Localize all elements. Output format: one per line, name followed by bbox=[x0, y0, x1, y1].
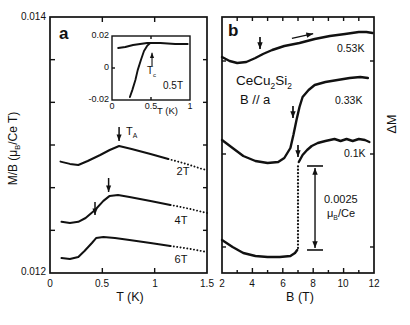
material-s2: 2 bbox=[287, 81, 292, 91]
panel-b-xtick-12: 12 bbox=[362, 279, 386, 289]
panel-b-y-axis-label: ΔM bbox=[386, 104, 400, 144]
panel-b-xtick-8: 8 bbox=[301, 279, 325, 289]
transition-label-TA: TA bbox=[126, 126, 137, 137]
y-axis-label-pre: M/B (μ bbox=[6, 150, 20, 186]
material-p1: CeCu bbox=[236, 73, 271, 88]
unit-post: /Ce bbox=[338, 207, 355, 219]
panel-a-xtick-1: 1 bbox=[140, 279, 170, 289]
panel-a-ytick-bottom: 0.012 bbox=[15, 267, 46, 277]
curve-label-053K: 0.53K bbox=[337, 43, 364, 54]
curve-label-2T: 2T bbox=[168, 166, 198, 177]
y-axis-label-post: /Ce T) bbox=[6, 112, 20, 145]
panel-b-xtick-6: 6 bbox=[271, 279, 295, 289]
panel-a-y-axis-label: M/B (μB/Ce T) bbox=[7, 69, 22, 229]
panel-a-xtick-0: 0 bbox=[35, 279, 65, 289]
y-axis-label-sub: B bbox=[13, 145, 22, 150]
inset-ytick-0: 0 bbox=[83, 63, 109, 72]
panel-b-xtick-10: 10 bbox=[331, 279, 355, 289]
panel-a-xtick-05: 0.5 bbox=[87, 279, 117, 289]
inset-xtick-1: 1 bbox=[182, 102, 198, 111]
panel-b-xtick-4: 4 bbox=[240, 279, 264, 289]
panel-a-x-axis-label: T (K) bbox=[100, 291, 160, 304]
inset-field-label: 0.5T bbox=[163, 81, 183, 91]
transition-label-Tc: Tc bbox=[147, 66, 156, 76]
panel-b-x-axis-label: B (T) bbox=[270, 291, 330, 304]
material-label: CeCu2Si2 bbox=[236, 74, 292, 88]
inset-x-axis-label: T (K) bbox=[157, 106, 178, 116]
TA-pre: T bbox=[126, 125, 133, 137]
panel-b-letter: b bbox=[228, 22, 238, 39]
inset-xtick-0: 0 bbox=[104, 102, 120, 111]
Tc-sub: c bbox=[153, 71, 156, 78]
material-p2: Si bbox=[275, 73, 287, 88]
TA-sub: A bbox=[133, 132, 138, 139]
field-orientation-label: B // a bbox=[240, 93, 270, 106]
curve-label-033K: 0.33K bbox=[335, 95, 362, 106]
panel-a-ytick-top: 0.014 bbox=[15, 12, 46, 22]
inset-ytick-002: 0.02 bbox=[83, 31, 109, 40]
curve-label-01K: 0.1K bbox=[344, 148, 366, 159]
panel-a-letter: a bbox=[59, 25, 68, 42]
scale-bar-unit: μB/Ce bbox=[327, 208, 355, 219]
curve-label-4T: 4T bbox=[166, 215, 196, 226]
curve-label-6T: 6T bbox=[166, 254, 196, 265]
panel-b-xtick-2: 2 bbox=[210, 279, 234, 289]
figure: a 0.014 0.012 M/B (μB/Ce T) 0 0.5 1 1.5 … bbox=[0, 0, 410, 325]
scale-bar-value: 0.0025 bbox=[324, 194, 358, 205]
